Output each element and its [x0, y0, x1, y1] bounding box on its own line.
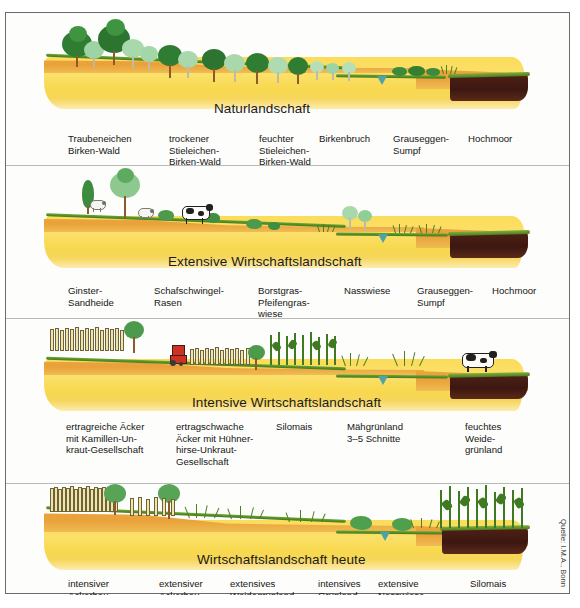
grass-tuft: [288, 510, 328, 522]
sedge-tuft: [442, 65, 458, 74]
grass-tuft: [396, 351, 426, 366]
panel-label: feuchtesWeide-grünland: [465, 421, 541, 456]
panel-title: Extensive Wirtschaftslandschaft: [168, 254, 362, 269]
grass-tuft: [344, 353, 370, 366]
panel-label: Birkenbruch: [319, 133, 391, 145]
panel-label: Silomais: [276, 421, 346, 433]
grass-tuft: [230, 506, 266, 519]
panel-label: trockenerStieleichen-Birken-Wald: [169, 133, 251, 165]
shrub: [158, 210, 174, 221]
cereal-field: [190, 349, 252, 365]
panel-label: extensiverAckerbau: [159, 578, 235, 595]
shrub: [392, 518, 412, 531]
panel-title: Intensive Wirtschaftslandschaft: [192, 395, 381, 410]
shrub: [268, 222, 280, 230]
sedge-tuft: [394, 224, 416, 233]
panel-label: extensivesWeidegrünland: [230, 578, 322, 595]
panel-label: Grauseggen-Sumpf: [417, 285, 493, 308]
panel-label: Hochmoor: [492, 285, 562, 297]
maize-field: [268, 331, 340, 365]
panel-label: extensiveNasswiese: [378, 578, 456, 595]
panel-label: ertragreiche Äckermit Kamillen-Un-kraut-…: [66, 421, 170, 456]
panel-title: Wirtschaftslandschaft heute: [197, 552, 366, 567]
panel-label: TraubeneichenBirken-Wald: [68, 133, 154, 156]
sedge-bush: [426, 68, 440, 76]
panel-label: Hochmoor: [468, 133, 538, 145]
panel-naturlandschaft: Naturlandschaft TraubeneichenBirken-Wald…: [6, 13, 569, 165]
cereal-field-sparse: [130, 498, 178, 516]
grass-tuft: [188, 504, 222, 518]
panel-label: Silomais: [470, 578, 540, 590]
sedge-tuft: [420, 224, 444, 233]
peat-bog-block: [450, 233, 528, 258]
panel-label: Ginster-Sandheide: [68, 285, 148, 308]
panel-label: Grauseggen-Sumpf: [393, 133, 469, 156]
panel-label: Borstgras-Pfeifengras-wiese: [258, 285, 338, 318]
panel-label: ertragschwacheÄcker mit Hühner-hirse-Unk…: [176, 421, 276, 467]
source-credit: Quelle: I.M.A., Bonn: [559, 519, 568, 587]
panel-title: Naturlandschaft: [214, 101, 310, 116]
shrub: [246, 219, 262, 229]
peat-bog-block: [450, 375, 528, 399]
panel-label: Mähgrünland3–5 Schnitte: [347, 421, 437, 444]
panel-label: Nasswiese: [344, 285, 416, 297]
sedge-bush: [392, 67, 407, 76]
peat-bog-block: [442, 528, 528, 554]
sedge-tuft: [318, 224, 338, 232]
panel-extensive-wirtschaftslandschaft: Extensive Wirtschaftslandschaft Ginster-…: [6, 166, 569, 318]
panel-label: intensiverAckerbau: [68, 578, 148, 595]
sedge-bush: [408, 66, 425, 76]
panel-intensive-wirtschaftslandschaft: Intensive Wirtschaftslandschaft ertragre…: [6, 319, 569, 483]
panel-wirtschaftslandschaft-heute: Wirtschaftslandschaft heute intensiverAc…: [6, 484, 569, 595]
peat-bog-block: [450, 75, 528, 101]
panel-label: Schafschwingel-Rasen: [154, 285, 250, 308]
cereal-field: [50, 329, 126, 351]
shrub: [350, 516, 372, 530]
maize-field: [438, 484, 530, 528]
figure-frame: Naturlandschaft TraubeneichenBirken-Wald…: [5, 12, 570, 594]
grass-tuft: [412, 518, 440, 528]
